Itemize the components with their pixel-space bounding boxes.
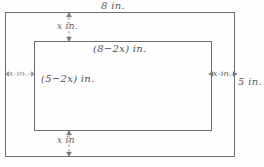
- geometry-diagram: 8 in. 5 in. (8−2x) in. (5−2x) in. x in. …: [0, 0, 264, 167]
- margin-bottom-label: x in: [57, 136, 75, 145]
- margin-right-label: x in.: [213, 70, 232, 78]
- inner-rectangle: [34, 41, 212, 131]
- inner-height-label: (5−2x) in.: [41, 74, 95, 84]
- margin-left-label: x in.: [9, 70, 28, 78]
- page-edge: [0, 164, 264, 167]
- margin-top-label: x in.: [57, 22, 78, 31]
- inner-width-label: (8−2x) in.: [93, 44, 147, 54]
- outer-height-label: 5 in.: [238, 77, 262, 87]
- outer-width-label: 8 in.: [101, 1, 125, 11]
